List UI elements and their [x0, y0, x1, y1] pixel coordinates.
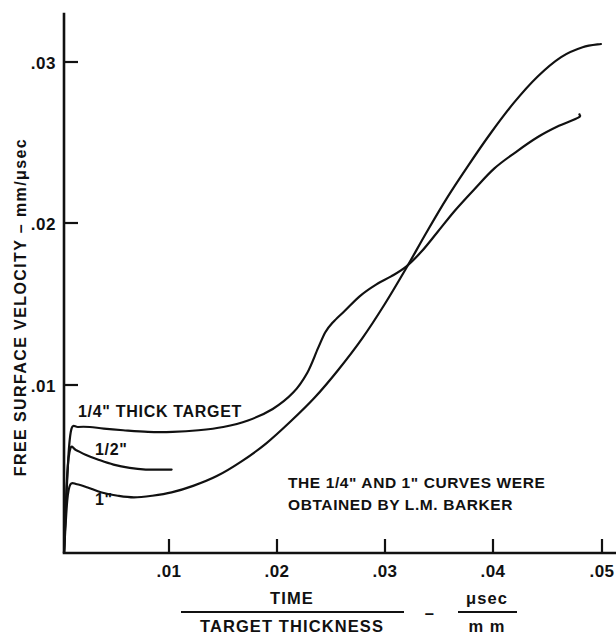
curve-half-inch: [64, 447, 172, 553]
figure-container: .03 .02 .01 .01 .02 .03 .04 .05 1/4" THI…: [0, 0, 616, 637]
chart-canvas: .03 .02 .01 .01 .02 .03 .04 .05 1/4" THI…: [0, 0, 616, 637]
x-axis-unit-denominator: m m: [468, 617, 505, 635]
y-axis-ticks: [64, 62, 78, 385]
annotation-line-1: THE 1/4" AND 1" CURVES WERE: [288, 474, 545, 491]
annotation-line-2: OBTAINED BY L.M. BARKER: [288, 496, 513, 513]
x-tick-label-03: .03: [372, 562, 397, 581]
y-tick-label-01: .01: [31, 377, 56, 396]
x-tick-label-04: .04: [480, 562, 505, 581]
y-tick-label-03: .03: [31, 54, 56, 73]
x-tick-label-01: .01: [156, 562, 181, 581]
x-axis-ticks: [169, 539, 602, 553]
y-axis-label: FREE SURFACE VELOCITY – mm/μsec: [12, 138, 29, 476]
x-axis-unit-numerator: μsec: [466, 589, 508, 607]
x-axis-label-denominator: TARGET THICKNESS: [200, 617, 384, 635]
x-axis-label-dash: –: [425, 604, 435, 622]
curve-label-half-inch: 1/2": [95, 441, 128, 458]
curve-label-quarter-inch: 1/4" THICK TARGET: [78, 403, 242, 420]
x-axis-label-numerator: TIME: [270, 589, 314, 607]
y-tick-label-02: .02: [31, 215, 56, 234]
x-tick-label-05: .05: [589, 562, 614, 581]
plot-axes: [64, 14, 616, 553]
x-tick-label-02: .02: [264, 562, 289, 581]
x-axis-label: TIME TARGET THICKNESS – μsec m m: [181, 589, 517, 635]
curve-label-one-inch: 1": [95, 491, 113, 508]
